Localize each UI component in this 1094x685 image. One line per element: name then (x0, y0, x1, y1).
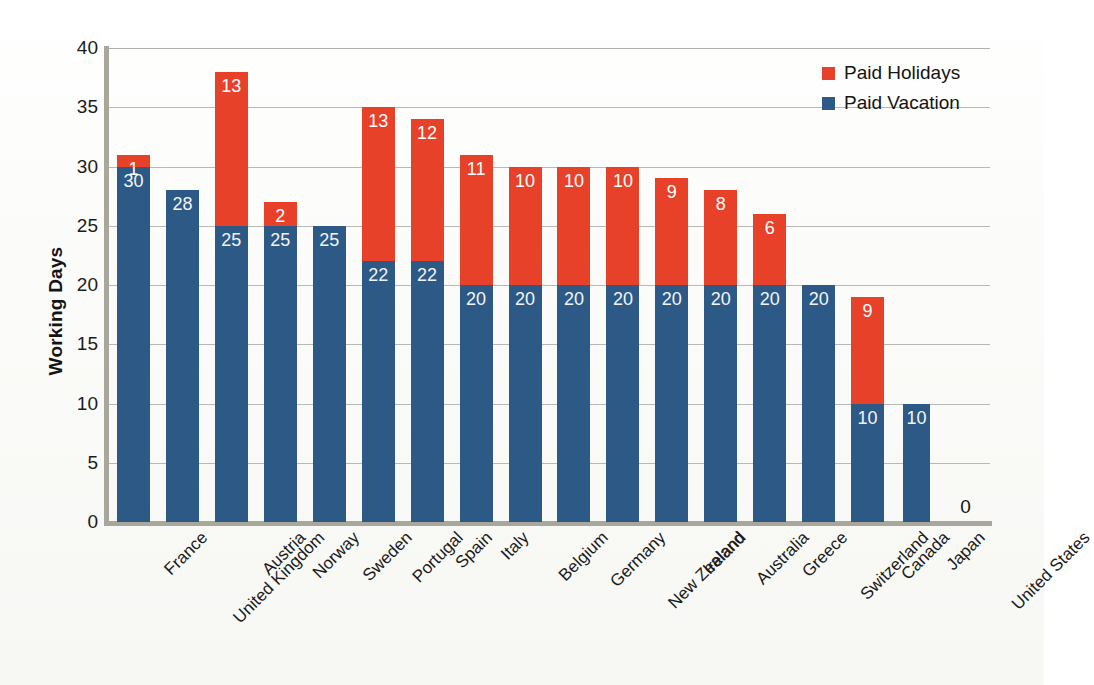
bar-value-label: 10 (613, 167, 633, 190)
bar-group[interactable]: 109 (851, 297, 884, 522)
bar-segment-paid-holidays[interactable]: 13 (215, 72, 248, 226)
y-tick-label-5: 5 (54, 452, 98, 474)
bar-segment-paid-holidays[interactable]: 11 (460, 155, 493, 285)
bar-segment-paid-holidays[interactable]: 10 (557, 167, 590, 286)
bar-value-label: 9 (863, 297, 873, 320)
y-tick-label-15: 15 (54, 333, 98, 355)
y-tick-label-10: 10 (54, 393, 98, 415)
bar-segment-paid-vacation[interactable]: 20 (606, 285, 639, 522)
bar-segment-paid-vacation[interactable]: 20 (557, 285, 590, 522)
bar-segment-paid-vacation[interactable]: 20 (753, 285, 786, 522)
x-axis-label: Germany (606, 528, 670, 592)
bar-group[interactable]: 2011 (460, 155, 493, 522)
x-axis-label: Japan (942, 528, 989, 575)
bar-segment-paid-vacation[interactable]: 10 (903, 404, 930, 523)
bar-value-label: 22 (368, 261, 388, 284)
bar-value-label: 6 (765, 214, 775, 237)
bar-group[interactable]: 301 (117, 155, 150, 522)
bar-group[interactable]: 20 (802, 285, 835, 522)
bar-value-label: 9 (667, 178, 677, 201)
y-tick-label-25: 25 (54, 215, 98, 237)
bar-value-label-zero: 0 (949, 496, 982, 518)
bar-segment-paid-vacation[interactable]: 20 (655, 285, 688, 522)
bar-value-label: 10 (907, 404, 927, 427)
bar-segment-paid-holidays[interactable]: 2 (264, 202, 297, 226)
y-axis-ticks: 4035302520151050 (46, 48, 98, 522)
bar-group[interactable]: 2212 (411, 119, 444, 522)
bar-segment-paid-vacation[interactable]: 20 (509, 285, 542, 522)
x-axis-label: France (161, 528, 213, 580)
plot-area: 3012825132522522132212201120102010201020… (109, 48, 990, 522)
bar-group[interactable]: 25 (313, 226, 346, 522)
y-tick-label-40: 40 (54, 37, 98, 59)
x-axis-label: Ireland (699, 528, 750, 579)
bar-value-label: 2 (275, 202, 285, 225)
x-axis-label: Italy (497, 528, 533, 564)
chart-legend: Paid HolidaysPaid Vacation (822, 58, 1002, 118)
bar-segment-paid-holidays[interactable]: 9 (851, 297, 884, 404)
bar-group[interactable]: 2010 (606, 167, 639, 523)
gridline-40 (109, 48, 990, 49)
bar-segment-paid-vacation[interactable]: 10 (851, 404, 884, 523)
bar-segment-paid-holidays[interactable]: 12 (411, 119, 444, 261)
bar-segment-paid-vacation[interactable]: 22 (362, 261, 395, 522)
x-axis-label: Sweden (359, 528, 417, 586)
bar-group[interactable]: 2010 (557, 167, 590, 523)
bar-segment-paid-vacation[interactable]: 25 (313, 226, 346, 522)
bar-value-label: 20 (760, 285, 780, 308)
legend-swatch-holiday-icon (822, 67, 835, 80)
bar-group[interactable]: 209 (655, 178, 688, 522)
bar-segment-paid-holidays[interactable]: 10 (509, 167, 542, 286)
legend-item[interactable]: Paid Holidays (822, 58, 1002, 88)
bar-group[interactable]: 2010 (509, 167, 542, 523)
bar-value-label: 10 (564, 167, 584, 190)
bar-value-label: 10 (515, 167, 535, 190)
bar-value-label: 20 (613, 285, 633, 308)
legend-swatch-vacation-icon (822, 97, 835, 110)
bar-value-label: 25 (270, 226, 290, 249)
bar-value-label: 20 (662, 285, 682, 308)
bar-segment-paid-holidays[interactable]: 10 (606, 167, 639, 286)
x-axis-label: Belgium (555, 528, 613, 586)
bar-group[interactable]: 10 (903, 404, 930, 523)
bar-segment-paid-vacation[interactable]: 30 (117, 167, 150, 523)
legend-label: Paid Vacation (844, 92, 960, 114)
bar-segment-paid-holidays[interactable]: 9 (655, 178, 688, 285)
bar-group[interactable]: 206 (753, 214, 786, 522)
bar-group[interactable]: 208 (704, 190, 737, 522)
legend-item[interactable]: Paid Vacation (822, 88, 1002, 118)
bar-segment-paid-vacation[interactable]: 28 (166, 190, 199, 522)
bar-value-label: 13 (221, 72, 241, 95)
legend-label: Paid Holidays (844, 62, 960, 84)
bar-value-label: 1 (128, 155, 138, 178)
bar-group[interactable]: 252 (264, 202, 297, 522)
bar-segment-paid-vacation[interactable]: 20 (704, 285, 737, 522)
bar-group[interactable]: 2213 (362, 107, 395, 522)
bar-group[interactable]: 28 (166, 190, 199, 522)
bar-segment-paid-holidays[interactable]: 13 (362, 107, 395, 261)
bar-segment-paid-holidays[interactable]: 1 (117, 155, 150, 167)
bar-value-label: 20 (564, 285, 584, 308)
bar-group[interactable]: 2513 (215, 72, 248, 522)
bar-segment-paid-vacation[interactable]: 20 (460, 285, 493, 522)
bar-value-label: 11 (467, 155, 486, 178)
bar-segment-paid-holidays[interactable]: 6 (753, 214, 786, 285)
bar-value-label: 20 (515, 285, 535, 308)
x-axis-label: Australia (752, 528, 813, 589)
bar-segment-paid-holidays[interactable]: 8 (704, 190, 737, 285)
bar-value-label: 10 (858, 404, 878, 427)
bar-value-label: 12 (417, 119, 437, 142)
bar-value-label: 20 (466, 285, 486, 308)
bar-segment-paid-vacation[interactable]: 22 (411, 261, 444, 522)
bar-value-label: 13 (368, 107, 388, 130)
bar-segment-paid-vacation[interactable]: 25 (215, 226, 248, 522)
x-axis-labels: FranceUnited KingdomAustriaNorwaySwedenP… (109, 528, 990, 678)
bar-value-label: 8 (716, 190, 726, 213)
y-tick-label-20: 20 (54, 274, 98, 296)
bar-value-label: 25 (319, 226, 339, 249)
bar-value-label: 25 (221, 226, 241, 249)
y-tick-label-0: 0 (54, 511, 98, 533)
bar-segment-paid-vacation[interactable]: 25 (264, 226, 297, 522)
bar-segment-paid-vacation[interactable]: 20 (802, 285, 835, 522)
bar-value-label: 20 (711, 285, 731, 308)
